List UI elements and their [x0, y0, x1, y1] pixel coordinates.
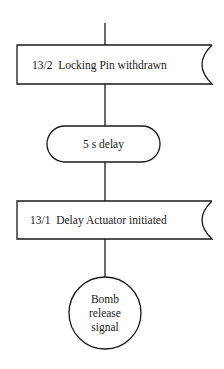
event-label: 13/1 Delay Actuator initiated [30, 214, 167, 227]
flowchart: 13/2 Locking Pin withdrawn 5 s delay 13/… [0, 0, 224, 369]
terminator-label: 5 s delay [83, 138, 124, 151]
circle-label-line-1: Bomb [91, 293, 119, 305]
event-box-locking-pin: 13/2 Locking Pin withdrawn [17, 45, 212, 84]
event-box-delay-actuator: 13/1 Delay Actuator initiated [17, 201, 212, 239]
circle-bomb-release: Bomb release signal [69, 277, 141, 349]
event-label: 13/2 Locking Pin withdrawn [32, 59, 167, 72]
circle-label-line-3: signal [91, 321, 118, 334]
terminator-delay: 5 s delay [47, 126, 160, 162]
circle-label-line-2: release [89, 307, 121, 319]
